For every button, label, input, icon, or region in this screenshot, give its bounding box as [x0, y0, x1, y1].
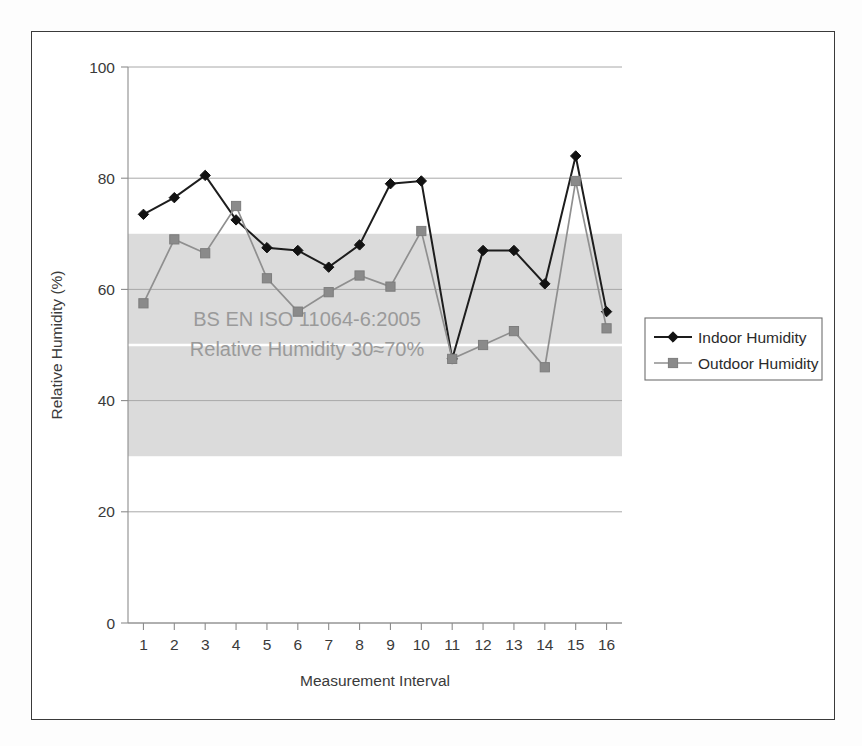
legend-label-indoor: Indoor Humidity [698, 329, 807, 346]
data-point-outdoor-7 [324, 288, 333, 297]
data-point-outdoor-2 [170, 235, 179, 244]
x-tick-label-16: 16 [598, 636, 615, 653]
y-tick-label-0: 0 [106, 615, 115, 632]
y-tick-label-40: 40 [98, 392, 116, 409]
data-point-indoor-15 [570, 151, 580, 161]
annotation-line-2: Relative Humidity 30≈70% [190, 338, 425, 360]
y-axis-ticks [121, 67, 128, 623]
data-point-outdoor-4 [231, 201, 240, 210]
annotation-line-1: BS EN ISO 11064-6:2005 [193, 308, 421, 330]
x-tick-label-3: 3 [201, 636, 210, 653]
y-tick-label-100: 100 [89, 59, 115, 76]
data-point-outdoor-11 [448, 354, 457, 363]
x-tick-label-5: 5 [263, 636, 272, 653]
data-point-indoor-9 [385, 179, 395, 189]
data-point-outdoor-9 [386, 282, 395, 291]
y-tick-label-80: 80 [98, 170, 116, 187]
x-tick-label-4: 4 [232, 636, 241, 653]
y-axis-tick-labels: 020406080100 [89, 59, 115, 632]
x-tick-label-10: 10 [413, 636, 431, 653]
data-point-outdoor-14 [540, 363, 549, 372]
data-point-outdoor-8 [355, 271, 364, 280]
legend-label-outdoor: Outdoor Humidity [698, 355, 819, 372]
page-canvas: 020406080100 12345678910111213141516 BS … [0, 0, 862, 746]
data-point-indoor-10 [416, 176, 426, 186]
chart-svg: 020406080100 12345678910111213141516 BS … [0, 0, 862, 746]
x-tick-label-6: 6 [294, 636, 303, 653]
data-point-outdoor-12 [478, 340, 487, 349]
x-axis-tick-labels: 12345678910111213141516 [139, 636, 615, 653]
x-tick-label-8: 8 [355, 636, 364, 653]
data-point-indoor-1 [138, 209, 148, 219]
x-tick-label-11: 11 [444, 636, 460, 653]
data-point-outdoor-16 [602, 324, 611, 333]
x-axis-title: Measurement Interval [300, 672, 450, 689]
x-tick-label-1: 1 [139, 636, 148, 653]
x-tick-label-14: 14 [536, 636, 554, 653]
x-tick-label-2: 2 [170, 636, 179, 653]
humidity-line-chart: 020406080100 12345678910111213141516 BS … [0, 0, 862, 746]
data-point-outdoor-5 [262, 274, 271, 283]
x-tick-label-9: 9 [386, 636, 395, 653]
data-point-outdoor-10 [417, 226, 426, 235]
x-tick-label-12: 12 [474, 636, 491, 653]
y-axis-title: Relative Humidity (%) [48, 270, 65, 419]
data-point-outdoor-15 [571, 176, 580, 185]
data-point-outdoor-1 [139, 299, 148, 308]
data-point-outdoor-3 [201, 249, 210, 258]
x-axis-ticks [143, 623, 606, 630]
data-point-outdoor-13 [509, 327, 518, 336]
x-tick-label-13: 13 [505, 636, 522, 653]
y-tick-label-60: 60 [98, 281, 116, 298]
chart-legend: Indoor HumidityOutdoor Humidity [645, 318, 822, 380]
x-tick-label-15: 15 [567, 636, 584, 653]
y-tick-label-20: 20 [98, 503, 116, 520]
x-tick-label-7: 7 [324, 636, 333, 653]
legend-marker-outdoor [668, 358, 677, 367]
data-point-outdoor-6 [293, 307, 302, 316]
